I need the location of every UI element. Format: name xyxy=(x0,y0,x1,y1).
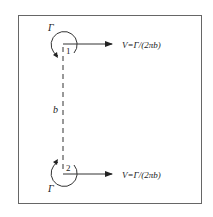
vortex1-velocity-label: V=Γ/(2πb) xyxy=(122,40,161,50)
vortex1-gamma-label: Γ xyxy=(47,22,54,33)
separation-b-label: b xyxy=(53,104,58,115)
vortex2-index-label: 2 xyxy=(66,163,71,173)
vortex-pair-diagram: Γ 1 V=Γ/(2πb) b 2 V=Γ/(2πb) Γ xyxy=(0,0,213,217)
vortex2-gamma-label: Γ xyxy=(47,183,54,194)
vortex1-index-label: 1 xyxy=(66,46,71,56)
vortex2-velocity-label: V=Γ/(2πb) xyxy=(122,170,161,180)
